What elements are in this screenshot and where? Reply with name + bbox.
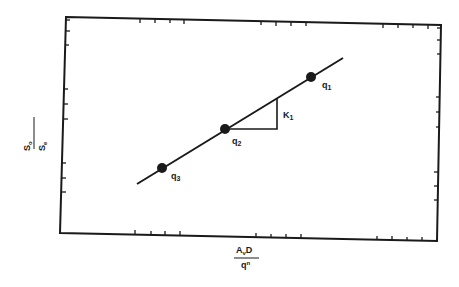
- label-q1: q1: [322, 80, 332, 91]
- svg-text:qn: qn: [241, 260, 251, 270]
- y-axis-label: So Se: [22, 117, 48, 151]
- x-axis-label: AvD qn: [234, 245, 259, 270]
- svg-text:AvD: AvD: [236, 245, 253, 256]
- data-point-q3: [157, 163, 167, 173]
- svg-text:So: So: [22, 141, 33, 151]
- label-q2: q2: [232, 136, 242, 147]
- label-q3: q3: [171, 171, 181, 182]
- label-k1: K1: [283, 110, 294, 121]
- chart-canvas: q1 q2 q3 K1 So Se AvD qn: [0, 0, 459, 287]
- svg-text:Se: Se: [37, 141, 48, 151]
- data-point-q1: [306, 72, 316, 82]
- data-point-q2: [220, 124, 230, 134]
